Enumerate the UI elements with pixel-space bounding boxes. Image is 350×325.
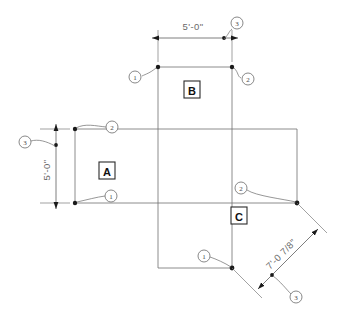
node-point <box>230 65 234 69</box>
callout-number: 3 <box>294 294 298 302</box>
leader-line-top-three <box>224 29 232 39</box>
callout-bubbles: 1 2 3 2 1 3 2 <box>19 17 302 303</box>
dimension-node-left <box>54 143 58 147</box>
room-labels: A B C <box>99 81 247 224</box>
callout-number: 2 <box>246 76 250 84</box>
leader-line-c-right <box>247 190 296 202</box>
room-label-a[interactable]: A <box>99 162 115 179</box>
room-label-b[interactable]: B <box>184 81 200 98</box>
callout-number: 2 <box>239 185 243 193</box>
room-label-c[interactable]: C <box>231 207 247 224</box>
leader-line-a-bottom <box>77 196 105 202</box>
callout-b-left[interactable]: 1 <box>129 71 141 83</box>
leader-line-b-left <box>142 68 156 76</box>
room-label-text: B <box>188 85 196 97</box>
callout-number: 1 <box>133 74 137 82</box>
callout-top-three[interactable]: 3 <box>231 17 243 29</box>
callout-c-bottom[interactable]: 1 <box>198 250 210 262</box>
leader-line-b-right <box>234 68 241 78</box>
room-label-text: A <box>103 166 111 178</box>
node-point <box>73 201 77 205</box>
extension-line-diagonal-upper <box>297 203 327 233</box>
leader-line-diag-three <box>273 276 291 294</box>
leader-line-a-top <box>76 125 106 128</box>
callout-leaders <box>31 29 296 294</box>
cad-drawing-canvas: 5'-0" 5'-0" 7'-0 7/8" <box>0 0 350 325</box>
leader-line-c-bottom <box>210 257 231 267</box>
callout-c-right[interactable]: 2 <box>235 182 247 194</box>
node-point <box>156 65 160 69</box>
callout-a-top[interactable]: 2 <box>106 121 118 133</box>
callout-left-three[interactable]: 3 <box>19 136 31 148</box>
dimension-top-group: 5'-0" <box>152 21 238 63</box>
callout-number: 1 <box>202 253 206 261</box>
dimension-label-top: 5'-0" <box>183 21 204 32</box>
callout-number: 3 <box>23 139 27 147</box>
dimension-label-left: 5'-0" <box>41 160 52 181</box>
leader-line-left-three <box>31 140 55 146</box>
callout-number: 3 <box>235 20 239 28</box>
callout-b-right[interactable]: 2 <box>242 73 254 85</box>
extension-line-diagonal-lower <box>232 268 262 298</box>
cad-drawing-svg: 5'-0" 5'-0" 7'-0 7/8" <box>0 0 350 325</box>
callout-diag-three[interactable]: 3 <box>290 291 302 303</box>
callout-number: 1 <box>109 193 113 201</box>
callout-a-bottom[interactable]: 1 <box>105 190 117 202</box>
callout-number: 2 <box>110 124 114 132</box>
room-label-text: C <box>235 211 243 223</box>
dimension-left-group: 5'-0" <box>40 124 70 209</box>
